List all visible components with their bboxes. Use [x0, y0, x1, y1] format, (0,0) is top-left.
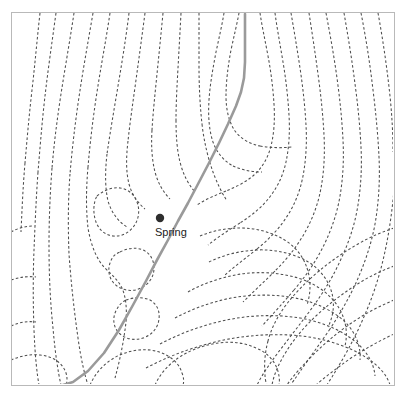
contour-line: [265, 341, 268, 385]
contour-line: [257, 13, 306, 249]
contour-line: [88, 13, 110, 167]
contour-line: [38, 13, 56, 172]
contour-line: [176, 13, 181, 120]
trail-layer: [63, 14, 245, 385]
contour-line: [243, 271, 275, 302]
contour-line: [114, 298, 159, 340]
contour-line: [94, 188, 139, 236]
contour-line: [33, 172, 39, 385]
contour-line: [90, 350, 184, 385]
contour-line: [70, 13, 93, 174]
contour-line: [225, 249, 257, 275]
contour-line: [272, 266, 394, 385]
contour-line: [107, 13, 129, 154]
contour-line: [200, 228, 307, 268]
contour-line: [68, 174, 88, 385]
contour-line: [275, 13, 324, 271]
contour-line: [128, 13, 145, 141]
contour-line: [294, 13, 343, 290]
contour-line: [197, 191, 226, 205]
contour-line: [152, 130, 170, 199]
contour-line: [87, 167, 127, 378]
contour-line: [233, 166, 262, 172]
contour-line: [176, 120, 195, 192]
spring-marker-icon[interactable]: [156, 214, 164, 222]
topographic-map: Spring: [0, 0, 406, 396]
contour-line: [226, 13, 274, 191]
contour-line: [260, 146, 292, 148]
contour-line: [52, 13, 74, 168]
contour-line: [209, 13, 233, 166]
contour-line: [49, 168, 61, 385]
contour-line: [268, 228, 394, 341]
contour-line: [11, 355, 67, 385]
contour-line: [21, 163, 25, 232]
trail-line: [63, 14, 245, 385]
contour-line: [378, 13, 393, 152]
contour-line: [199, 13, 202, 124]
contour-line: [208, 223, 240, 245]
contour-line: [240, 13, 289, 223]
contour-line: [11, 226, 34, 232]
contour-line: [106, 154, 127, 227]
contour-line: [330, 13, 379, 329]
contour-line: [312, 13, 361, 308]
contour-line: [25, 13, 40, 163]
contour-line: [257, 308, 312, 385]
contour-line: [152, 13, 163, 130]
contour-line: [109, 248, 154, 290]
contour-line: [11, 277, 36, 280]
map-markers-layer: Spring: [155, 214, 187, 238]
map-canvas: Spring: [0, 0, 406, 396]
contour-line: [11, 322, 36, 326]
spring-label: Spring: [155, 226, 187, 238]
contour-lines-layer: [11, 13, 394, 385]
